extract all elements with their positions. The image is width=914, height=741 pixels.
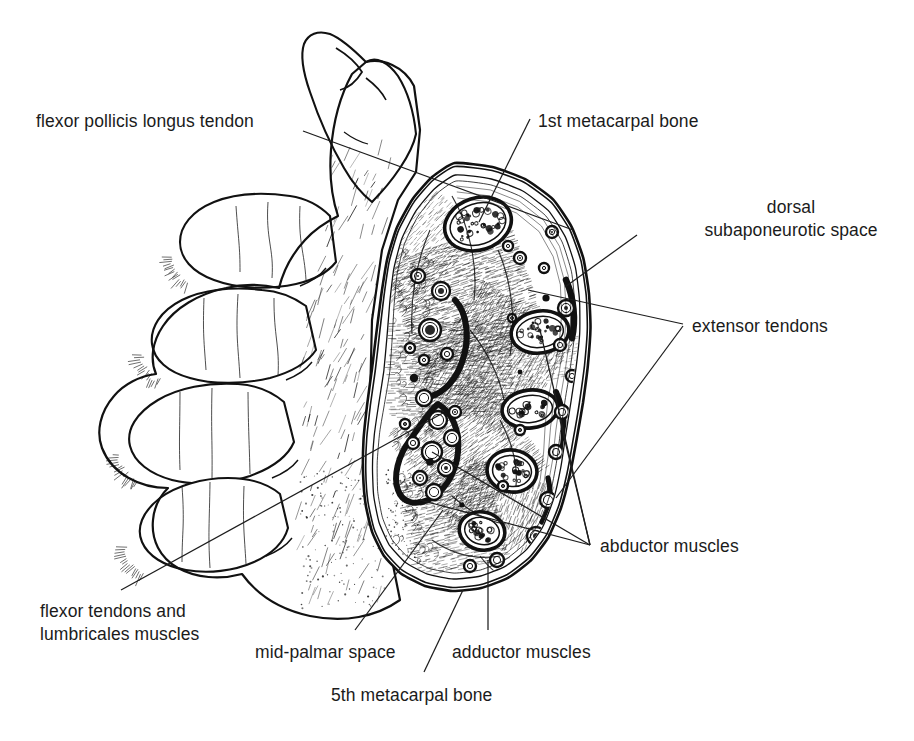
cross-section-layer <box>351 163 658 591</box>
hand-cross-section-figure: flexor pollicis longus tendon 1st metaca… <box>0 0 914 741</box>
label-flexor-tendons-line-1: flexor tendons and <box>40 600 300 623</box>
label-abductor-muscles: abductor muscles <box>600 535 739 558</box>
label-1st-metacarpal-bone: 1st metacarpal bone <box>538 110 698 133</box>
label-flexor-tendons-and-lumbricales-muscles: flexor tendons and lumbricales muscles <box>40 600 300 646</box>
label-adductor-muscles: adductor muscles <box>452 641 591 664</box>
label-5th-metacarpal-bone: 5th metacarpal bone <box>331 684 492 707</box>
label-dorsal-subaponeurotic-line-1: dorsal <box>676 196 906 219</box>
label-flexor-pollicis-longus-tendon: flexor pollicis longus tendon <box>36 110 254 133</box>
label-extensor-tendons: extensor tendons <box>692 315 828 338</box>
label-mid-palmar-space: mid-palmar space <box>255 641 396 664</box>
label-dorsal-subaponeurotic-line-2: subaponeurotic space <box>676 219 906 242</box>
label-dorsal-subaponeurotic-space: dorsal subaponeurotic space <box>676 196 906 242</box>
